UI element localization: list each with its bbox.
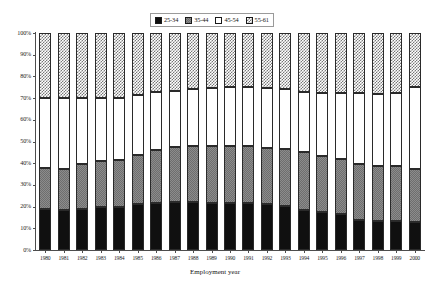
bar-1987[interactable] — [169, 33, 181, 250]
bar-segment-1999-25-34[interactable] — [390, 221, 402, 250]
bar-segment-1993-35-44[interactable] — [279, 149, 291, 205]
bar-segment-2000-25-34[interactable] — [409, 222, 421, 250]
bar-segment-1984-55-61[interactable] — [113, 33, 125, 98]
bar-segment-1985-25-34[interactable] — [132, 204, 144, 250]
bar-1992[interactable] — [261, 33, 273, 250]
bar-segment-1992-45-54[interactable] — [261, 88, 273, 148]
bar-segment-1993-45-54[interactable] — [279, 89, 291, 149]
bar-1980[interactable] — [39, 33, 51, 250]
bar-1997[interactable] — [353, 33, 365, 250]
bar-segment-1987-25-34[interactable] — [169, 202, 181, 250]
bar-1986[interactable] — [150, 33, 162, 250]
bar-segment-1981-25-34[interactable] — [58, 210, 70, 250]
bar-segment-1980-35-44[interactable] — [39, 168, 51, 209]
legend-entry-45-54[interactable]: 45-54 — [215, 17, 238, 24]
bar-segment-1988-35-44[interactable] — [187, 146, 199, 202]
bar-segment-1985-55-61[interactable] — [132, 33, 144, 95]
bar-1996[interactable] — [335, 33, 347, 250]
bar-segment-2000-35-44[interactable] — [409, 169, 421, 222]
bar-segment-1982-45-54[interactable] — [76, 98, 88, 164]
bar-segment-1998-45-54[interactable] — [372, 94, 384, 167]
bar-segment-1983-45-54[interactable] — [95, 98, 107, 161]
bar-segment-1989-35-44[interactable] — [206, 146, 218, 204]
bar-1990[interactable] — [224, 33, 236, 250]
bar-segment-1981-35-44[interactable] — [58, 169, 70, 210]
bar-segment-1987-35-44[interactable] — [169, 147, 181, 202]
bar-segment-1987-45-54[interactable] — [169, 91, 181, 147]
bar-1983[interactable] — [95, 33, 107, 250]
bar-segment-1980-55-61[interactable] — [39, 33, 51, 98]
bar-segment-1991-45-54[interactable] — [242, 87, 254, 146]
bar-1982[interactable] — [76, 33, 88, 250]
bar-segment-2000-55-61[interactable] — [409, 33, 421, 87]
bar-segment-1993-55-61[interactable] — [279, 33, 291, 89]
bar-1993[interactable] — [279, 33, 291, 250]
bar-segment-1994-55-61[interactable] — [298, 33, 310, 92]
bar-segment-1996-35-44[interactable] — [335, 159, 347, 214]
bar-segment-1997-45-54[interactable] — [353, 93, 365, 165]
bar-1995[interactable] — [316, 33, 328, 250]
bar-segment-1997-35-44[interactable] — [353, 164, 365, 219]
bar-segment-1988-45-54[interactable] — [187, 89, 199, 145]
bar-segment-1984-25-34[interactable] — [113, 207, 125, 250]
bar-segment-1991-55-61[interactable] — [242, 33, 254, 87]
bar-segment-1985-45-54[interactable] — [132, 95, 144, 155]
legend-entry-35-44[interactable]: 35-44 — [185, 17, 208, 24]
bar-segment-1999-45-54[interactable] — [390, 93, 402, 167]
bar-segment-1992-25-34[interactable] — [261, 204, 273, 250]
bar-segment-1994-45-54[interactable] — [298, 92, 310, 153]
bar-segment-1983-55-61[interactable] — [95, 33, 107, 98]
bar-segment-1996-55-61[interactable] — [335, 33, 347, 93]
bar-segment-1980-45-54[interactable] — [39, 98, 51, 167]
bar-segment-1993-25-34[interactable] — [279, 206, 291, 250]
bar-segment-1999-55-61[interactable] — [390, 33, 402, 93]
bar-segment-1988-25-34[interactable] — [187, 202, 199, 250]
bar-segment-1986-55-61[interactable] — [150, 33, 162, 92]
bar-1999[interactable] — [390, 33, 402, 250]
bar-segment-1986-25-34[interactable] — [150, 203, 162, 250]
bar-segment-1990-25-34[interactable] — [224, 203, 236, 250]
bar-2000[interactable] — [409, 33, 421, 250]
bar-segment-1992-55-61[interactable] — [261, 33, 273, 88]
bar-segment-1998-35-44[interactable] — [372, 166, 384, 220]
bar-segment-1989-25-34[interactable] — [206, 203, 218, 250]
bar-1994[interactable] — [298, 33, 310, 250]
bar-segment-1997-55-61[interactable] — [353, 33, 365, 93]
bar-segment-1998-55-61[interactable] — [372, 33, 384, 94]
bar-segment-1988-55-61[interactable] — [187, 33, 199, 89]
bar-1998[interactable] — [372, 33, 384, 250]
bar-segment-1982-25-34[interactable] — [76, 209, 88, 250]
bar-segment-1982-35-44[interactable] — [76, 164, 88, 208]
bar-segment-1999-35-44[interactable] — [390, 166, 402, 220]
bar-segment-1995-35-44[interactable] — [316, 156, 328, 212]
legend-entry-55-61[interactable]: 55-61 — [246, 17, 269, 24]
bar-segment-1995-45-54[interactable] — [316, 93, 328, 156]
bar-segment-1996-45-54[interactable] — [335, 93, 347, 159]
bar-segment-1995-55-61[interactable] — [316, 33, 328, 93]
bar-1981[interactable] — [58, 33, 70, 250]
bar-segment-1984-35-44[interactable] — [113, 160, 125, 207]
bar-segment-1996-25-34[interactable] — [335, 214, 347, 250]
bar-segment-1983-35-44[interactable] — [95, 161, 107, 207]
bar-1989[interactable] — [206, 33, 218, 250]
bar-1984[interactable] — [113, 33, 125, 250]
bar-segment-1995-25-34[interactable] — [316, 212, 328, 250]
bar-segment-1990-45-54[interactable] — [224, 87, 236, 146]
bar-segment-1994-35-44[interactable] — [298, 152, 310, 210]
bar-1985[interactable] — [132, 33, 144, 250]
bar-segment-1990-55-61[interactable] — [224, 33, 236, 87]
bar-segment-1984-45-54[interactable] — [113, 98, 125, 160]
bar-segment-1989-45-54[interactable] — [206, 88, 218, 146]
bar-segment-1991-25-34[interactable] — [242, 203, 254, 250]
bar-segment-1983-25-34[interactable] — [95, 207, 107, 250]
bar-segment-2000-45-54[interactable] — [409, 87, 421, 168]
bar-segment-1994-25-34[interactable] — [298, 210, 310, 250]
bar-segment-1987-55-61[interactable] — [169, 33, 181, 91]
bar-segment-1986-45-54[interactable] — [150, 92, 162, 151]
legend-entry-25-34[interactable]: 25-34 — [155, 17, 178, 24]
bar-segment-1980-25-34[interactable] — [39, 209, 51, 250]
bar-segment-1981-45-54[interactable] — [58, 98, 70, 169]
bar-1991[interactable] — [242, 33, 254, 250]
bar-1988[interactable] — [187, 33, 199, 250]
bar-segment-1992-35-44[interactable] — [261, 148, 273, 204]
